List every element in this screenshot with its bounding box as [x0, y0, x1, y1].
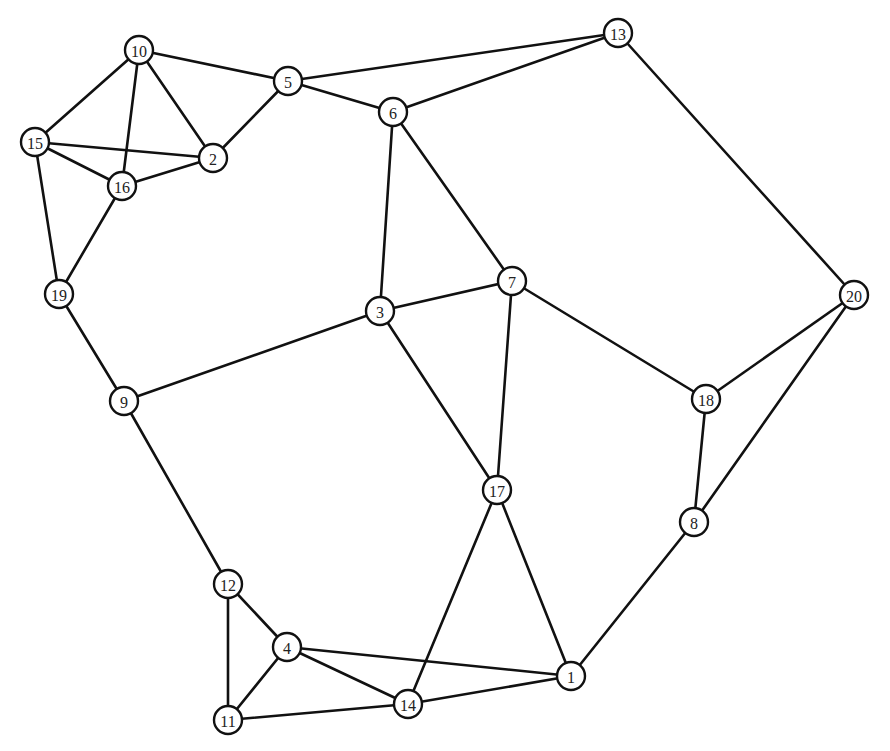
edge-8-1 [571, 522, 694, 676]
edge-7-17 [497, 281, 512, 490]
edge-19-9 [59, 294, 124, 401]
node-label: 8 [690, 515, 698, 532]
edge-17-1 [497, 490, 571, 676]
node-4: 4 [273, 633, 301, 661]
edge-5-6 [288, 81, 393, 112]
edge-3-7 [380, 281, 512, 311]
edge-14-1 [408, 676, 571, 704]
node-label: 11 [220, 713, 235, 730]
node-label: 12 [220, 577, 236, 594]
edge-10-5 [139, 50, 288, 81]
node-label: 1 [567, 669, 575, 686]
edge-6-3 [380, 112, 393, 311]
edge-3-9 [124, 311, 380, 401]
node-7: 7 [498, 267, 526, 295]
node-11: 11 [214, 706, 242, 734]
edge-6-7 [393, 112, 512, 281]
edge-11-14 [228, 704, 408, 720]
edge-17-14 [408, 490, 497, 704]
node-20: 20 [840, 281, 868, 309]
node-label: 17 [489, 483, 505, 500]
node-16: 16 [108, 172, 136, 200]
node-9: 9 [110, 387, 138, 415]
edge-10-16 [122, 50, 139, 186]
edge-7-18 [512, 281, 706, 399]
edge-4-14 [287, 647, 408, 704]
edge-20-8 [694, 295, 854, 522]
edge-10-15 [35, 50, 139, 142]
node-1: 1 [557, 662, 585, 690]
node-18: 18 [692, 385, 720, 413]
node-12: 12 [214, 570, 242, 598]
node-label: 9 [120, 394, 128, 411]
graph-diagram: 1234567891011121314151617181920 [0, 0, 890, 751]
node-label: 2 [209, 151, 217, 168]
node-19: 19 [45, 280, 73, 308]
edge-16-19 [59, 186, 122, 294]
node-14: 14 [394, 690, 422, 718]
node-2: 2 [199, 144, 227, 172]
node-label: 20 [846, 288, 862, 305]
node-label: 19 [51, 287, 67, 304]
node-label: 5 [284, 74, 292, 91]
node-label: 18 [698, 392, 714, 409]
edge-18-8 [694, 399, 706, 522]
node-17: 17 [483, 476, 511, 504]
node-13: 13 [604, 19, 632, 47]
node-5: 5 [274, 67, 302, 95]
edge-9-12 [124, 401, 228, 584]
node-label: 15 [27, 135, 43, 152]
edge-5-13 [288, 33, 618, 81]
node-6: 6 [379, 98, 407, 126]
node-10: 10 [125, 36, 153, 64]
node-label: 14 [400, 697, 416, 714]
edge-20-18 [706, 295, 854, 399]
edges-layer [35, 33, 854, 720]
node-label: 3 [376, 304, 384, 321]
edge-15-19 [35, 142, 59, 294]
nodes-layer: 1234567891011121314151617181920 [21, 19, 868, 734]
edge-2-5 [213, 81, 288, 158]
node-label: 7 [508, 274, 516, 291]
node-3: 3 [366, 297, 394, 325]
edge-6-13 [393, 33, 618, 112]
node-label: 10 [131, 43, 147, 60]
node-label: 6 [389, 105, 397, 122]
node-15: 15 [21, 128, 49, 156]
edge-10-2 [139, 50, 213, 158]
edge-13-20 [618, 33, 854, 295]
node-label: 13 [610, 26, 626, 43]
edge-3-17 [380, 311, 497, 490]
node-label: 16 [114, 179, 130, 196]
node-label: 4 [283, 640, 291, 657]
node-8: 8 [680, 508, 708, 536]
